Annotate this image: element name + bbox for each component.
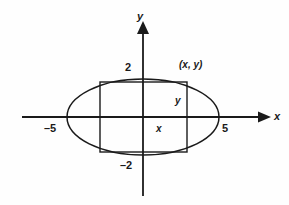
y-tick-label-neg2: –2 xyxy=(120,160,132,171)
x-axis-arrowhead xyxy=(258,112,271,123)
height-label: y xyxy=(175,96,181,106)
y-axis-arrowhead xyxy=(137,21,149,34)
width-label: x xyxy=(156,124,162,134)
geometry-figure: y x 2 –2 –5 5 (x, y) x y xyxy=(0,0,289,205)
vertex-point-label: (x, y) xyxy=(179,60,202,70)
x-axis-label: x xyxy=(274,111,280,122)
y-axis-label: y xyxy=(137,11,143,22)
x-tick-label-5: 5 xyxy=(222,123,228,134)
diagram-canvas xyxy=(0,0,289,205)
y-tick-label-2: 2 xyxy=(125,62,131,73)
x-tick-label-neg5: –5 xyxy=(44,123,56,134)
